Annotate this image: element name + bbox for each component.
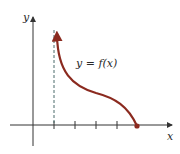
x-axis-label: x bbox=[167, 130, 173, 143]
curve-endpoint-dot bbox=[134, 123, 139, 128]
y-axis-label: y bbox=[23, 11, 29, 24]
function-label: y = f(x) bbox=[76, 57, 117, 70]
function-curve bbox=[57, 36, 137, 126]
